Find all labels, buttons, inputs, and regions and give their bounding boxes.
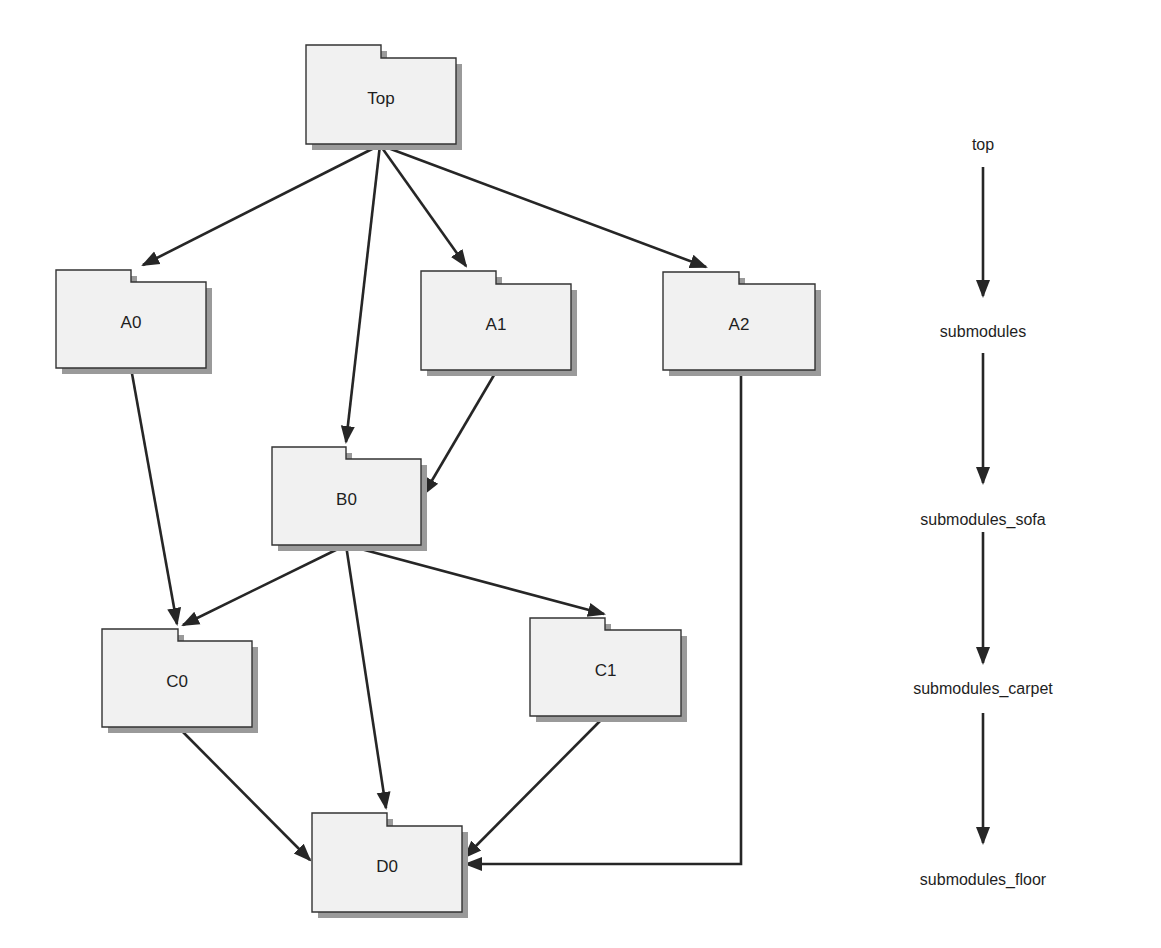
node-label: B0 [336, 490, 357, 509]
node-label: A0 [121, 313, 142, 332]
edges-layer [131, 145, 741, 864]
node-label: A2 [729, 315, 750, 334]
node-d0[interactable]: D0 [312, 813, 468, 918]
edge-top-to-a0 [143, 145, 380, 265]
node-a1[interactable]: A1 [421, 271, 577, 376]
node-label: C0 [166, 672, 188, 691]
node-label: D0 [376, 857, 398, 876]
hierarchy-level-label: submodules_sofa [920, 511, 1046, 529]
hierarchy-legend: topsubmodulessubmodules_sofasubmodules_c… [913, 136, 1053, 889]
node-c0[interactable]: C0 [102, 629, 258, 733]
hierarchy-level-label: submodules_carpet [913, 680, 1053, 698]
node-c1[interactable]: C1 [530, 618, 687, 722]
edge-top-to-a1 [380, 145, 466, 266]
edge-a1-to-b0 [424, 370, 497, 494]
hierarchy-level-label: top [972, 136, 994, 153]
edge-a2-to-d0 [466, 370, 741, 864]
node-label: C1 [595, 661, 617, 680]
hierarchy-level-label: submodules [940, 323, 1026, 340]
edge-a0-to-c0 [131, 368, 177, 624]
hierarchy-level-label: submodules_floor [920, 871, 1047, 889]
node-a0[interactable]: A0 [56, 270, 212, 374]
edge-b0-to-c0 [183, 545, 346, 625]
edge-b0-to-c1 [346, 545, 604, 614]
node-a2[interactable]: A2 [663, 272, 821, 376]
node-top[interactable]: Top [306, 45, 462, 150]
edge-top-to-b0 [346, 145, 380, 442]
node-b0[interactable]: B0 [272, 447, 427, 551]
edge-c0-to-d0 [178, 727, 310, 860]
edge-b0-to-d0 [346, 545, 386, 808]
edge-top-to-a2 [380, 145, 706, 267]
node-label: A1 [486, 315, 507, 334]
dependency-diagram: TopA0A1A2B0C0C1D0 topsubmodulessubmodule… [0, 0, 1161, 948]
nodes-layer: TopA0A1A2B0C0C1D0 [56, 45, 821, 918]
edge-c1-to-d0 [465, 716, 605, 857]
node-label: Top [367, 89, 394, 108]
